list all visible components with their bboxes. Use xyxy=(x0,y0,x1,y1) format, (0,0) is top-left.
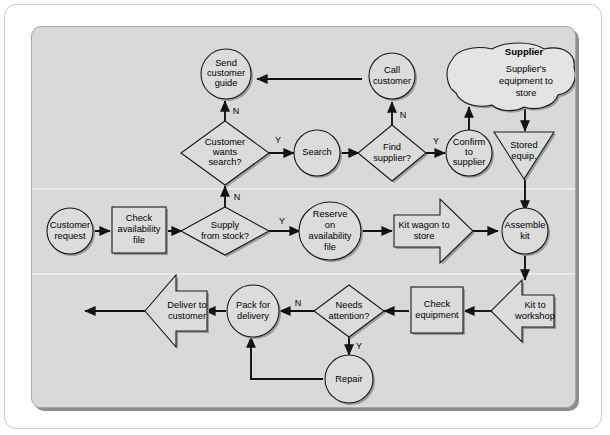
branch-label-wants-search-yes: Y xyxy=(275,135,281,145)
node-label: Assemble xyxy=(505,220,546,230)
node-label: store xyxy=(516,88,537,98)
node-label: Check xyxy=(126,213,153,223)
node-label: Reserve xyxy=(313,209,348,219)
branch-label-needs-no: N xyxy=(295,298,302,308)
node-label: search? xyxy=(208,157,241,167)
node-label: Stored xyxy=(510,140,537,150)
node-label: availability xyxy=(118,224,161,234)
node-call-customer[interactable]: Call customer xyxy=(369,53,417,101)
branch-label-supply-no: N xyxy=(234,192,241,202)
node-label: Customer xyxy=(50,220,90,230)
node-label: equip. xyxy=(511,151,536,161)
node-stored-equip[interactable]: Stored equip. xyxy=(494,132,556,181)
node-label: attention? xyxy=(329,311,370,321)
node-label: Supply xyxy=(211,220,240,230)
node-label: file xyxy=(133,235,145,245)
node-label: Deliver to xyxy=(167,300,206,310)
flowchart-svg: Send customer guide Call customer Suppli… xyxy=(32,27,576,408)
node-reserve-on-availability-file[interactable]: Reserve on availability file xyxy=(299,202,363,262)
flowchart-panel: Send customer guide Call customer Suppli… xyxy=(31,26,576,408)
node-label: wants xyxy=(212,147,238,157)
node-label: delivery xyxy=(237,311,269,321)
node-label: to xyxy=(465,147,473,157)
node-label: Send xyxy=(215,58,237,68)
node-deliver-to-customer[interactable]: Deliver to customer xyxy=(145,275,209,349)
node-send-customer-guide[interactable]: Send customer guide xyxy=(201,49,253,101)
node-check-equipment[interactable]: Check equipment xyxy=(411,287,465,335)
node-supplier-equipment[interactable]: Supplier Supplier's equipment to store xyxy=(447,43,576,113)
node-label: Kit wagon to xyxy=(398,220,449,230)
branch-label-needs-yes: Y xyxy=(356,341,362,351)
node-label: equipment to xyxy=(499,76,553,86)
node-label: availability xyxy=(309,231,352,241)
node-label: Check xyxy=(424,299,451,309)
node-pack-for-delivery[interactable]: Pack for delivery xyxy=(227,285,281,339)
node-label: workshop xyxy=(514,311,555,321)
node-label: equipment xyxy=(415,310,459,320)
node-assemble-kit[interactable]: Assemble kit xyxy=(502,208,550,256)
node-label: guide xyxy=(215,78,238,88)
node-label: Customer xyxy=(205,137,245,147)
node-kit-to-workshop[interactable]: Kit to workshop xyxy=(491,280,556,344)
node-label: Repair xyxy=(335,374,362,384)
node-label: kit xyxy=(520,231,530,241)
node-confirm-to-supplier[interactable]: Confirm to supplier xyxy=(446,130,494,178)
branch-label-wants-search-no: N xyxy=(233,106,240,116)
node-label: supplier? xyxy=(373,153,411,163)
edge-repair-to-pack xyxy=(251,337,323,379)
node-kit-wagon-to-store[interactable]: Kit wagon to store xyxy=(394,199,475,265)
node-needs-attention[interactable]: Needs attention? xyxy=(314,285,386,339)
supplier-lane-label: Supplier xyxy=(505,46,544,57)
node-label: customer xyxy=(373,76,411,86)
node-label: supplier xyxy=(453,157,486,167)
branch-label-supply-yes: Y xyxy=(279,216,285,226)
node-customer-request[interactable]: Customer request xyxy=(47,208,95,256)
node-label: Call xyxy=(384,65,400,75)
node-find-supplier[interactable]: Find supplier? xyxy=(358,125,428,183)
node-customer-wants-search[interactable]: Customer wants search? xyxy=(181,121,271,187)
node-label: on xyxy=(325,220,335,230)
node-label: customer xyxy=(168,311,206,321)
node-check-availability-file[interactable]: Check availability file xyxy=(112,207,168,255)
node-label: Kit to xyxy=(524,300,545,310)
node-label: Search xyxy=(302,147,331,157)
branch-label-find-supplier-yes: Y xyxy=(433,136,439,146)
node-label: request xyxy=(54,231,85,241)
node-label: store xyxy=(414,231,435,241)
node-label: Supplier's xyxy=(506,64,547,74)
node-label: Needs xyxy=(336,300,363,310)
branch-label-find-supplier-no: N xyxy=(400,110,407,120)
node-label: Find xyxy=(383,142,401,152)
node-label: Pack for xyxy=(236,300,270,310)
node-supply-from-stock[interactable]: Supply from stock? xyxy=(181,207,271,257)
node-label: customer xyxy=(207,68,245,78)
page-root: Send customer guide Call customer Suppli… xyxy=(0,0,610,435)
node-search[interactable]: Search xyxy=(294,130,342,178)
node-repair[interactable]: Repair xyxy=(325,355,375,405)
node-label: Confirm xyxy=(453,137,486,147)
node-label: from stock? xyxy=(201,231,249,241)
node-label: file xyxy=(324,242,336,252)
